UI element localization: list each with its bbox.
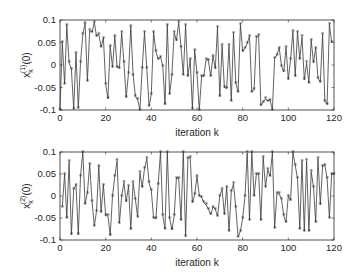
asterisk-marker: * — [220, 186, 224, 194]
asterisk-marker: * — [298, 56, 302, 64]
y-tick-label: 0.1 — [43, 14, 56, 25]
asterisk-marker: * — [177, 19, 181, 27]
asterisk-marker: * — [230, 98, 234, 106]
asterisk-marker: * — [298, 226, 302, 234]
asterisk-marker: * — [163, 226, 167, 234]
asterisk-marker: * — [243, 193, 247, 201]
asterisk-marker: * — [293, 162, 297, 170]
asterisk-marker: * — [250, 149, 254, 157]
y-axis-label: xk(2)(0) — [19, 183, 34, 208]
asterisk-marker: * — [252, 86, 256, 94]
asterisk-marker: * — [193, 47, 197, 55]
asterisk-marker: * — [63, 81, 67, 89]
asterisk-marker: * — [209, 211, 213, 219]
asterisk-marker: * — [291, 28, 295, 36]
asterisk-marker: * — [147, 103, 151, 111]
asterisk-marker: * — [168, 91, 172, 99]
asterisk-marker: * — [312, 59, 316, 67]
asterisk-marker: * — [273, 225, 277, 233]
asterisk-marker: * — [214, 65, 218, 73]
asterisk-marker: * — [106, 212, 110, 220]
asterisk-marker: * — [261, 154, 265, 162]
asterisk-marker: * — [81, 31, 85, 39]
asterisk-marker: * — [223, 211, 227, 219]
asterisk-marker: * — [227, 228, 231, 236]
asterisk-marker: * — [108, 232, 112, 240]
asterisk-marker: * — [115, 157, 119, 165]
asterisk-marker: * — [282, 68, 286, 76]
asterisk-marker: * — [277, 45, 281, 53]
asterisk-marker: * — [307, 228, 311, 236]
asterisk-marker: * — [111, 193, 115, 201]
asterisk-marker: * — [303, 228, 307, 236]
asterisk-marker: * — [287, 76, 291, 84]
asterisk-marker: * — [209, 73, 213, 81]
asterisk-marker: * — [136, 96, 140, 104]
asterisk-marker: * — [147, 179, 151, 187]
y-tick-label: 0.05 — [38, 168, 57, 179]
asterisk-marker: * — [90, 198, 94, 206]
asterisk-marker: * — [77, 231, 81, 239]
x-tick-label: 0 — [57, 242, 62, 253]
asterisk-marker: * — [284, 44, 288, 52]
x-axis-label: iteration k — [175, 257, 219, 268]
asterisk-marker: * — [184, 22, 188, 30]
asterisk-marker: * — [179, 217, 183, 225]
asterisk-marker: * — [319, 201, 323, 209]
asterisk-marker: * — [305, 59, 309, 67]
x-tick-label: 20 — [100, 112, 111, 123]
asterisk-marker: * — [289, 56, 293, 64]
x-tick-label: 40 — [146, 112, 157, 123]
asterisk-marker: * — [300, 33, 304, 41]
asterisk-marker: * — [124, 94, 128, 102]
x-tick-label: 100 — [280, 242, 296, 253]
asterisk-marker: * — [74, 50, 78, 58]
x-tick-label: 60 — [192, 242, 203, 253]
subplot-bottom: ****************************************… — [19, 146, 342, 268]
asterisk-marker: * — [70, 66, 74, 74]
asterisk-marker: * — [191, 199, 195, 207]
asterisk-marker: * — [113, 33, 117, 41]
asterisk-marker: * — [138, 107, 142, 115]
y-tick-label: -0.1 — [40, 234, 56, 245]
asterisk-marker: * — [175, 37, 179, 45]
asterisk-marker: * — [236, 89, 240, 97]
asterisk-marker: * — [232, 30, 236, 38]
asterisk-marker: * — [230, 188, 234, 196]
subplot-top: ****************************************… — [19, 14, 342, 138]
asterisk-marker: * — [289, 197, 293, 205]
x-tick-label: 20 — [100, 242, 111, 253]
asterisk-marker: * — [65, 215, 69, 223]
asterisk-marker: * — [106, 95, 110, 103]
asterisk-marker: * — [134, 196, 138, 204]
asterisk-marker: * — [257, 32, 261, 40]
asterisk-marker: * — [328, 21, 332, 29]
asterisk-marker: * — [309, 168, 313, 176]
asterisk-marker: * — [61, 204, 65, 212]
asterisk-marker: * — [79, 59, 83, 67]
asterisk-marker: * — [239, 228, 243, 236]
asterisk-marker: * — [172, 29, 176, 37]
asterisk-marker: * — [140, 184, 144, 192]
asterisk-marker: * — [257, 171, 261, 179]
asterisk-marker: * — [271, 107, 275, 115]
asterisk-marker: * — [122, 179, 126, 187]
asterisk-marker: * — [332, 171, 336, 179]
asterisk-marker: * — [323, 162, 327, 170]
x-tick-label: 120 — [326, 242, 342, 253]
y-tick-label: 0 — [51, 59, 56, 70]
y-tick-label: -0.05 — [34, 82, 56, 93]
asterisk-marker: * — [202, 73, 206, 81]
asterisk-marker: * — [314, 219, 318, 227]
asterisk-marker: * — [207, 57, 211, 65]
asterisk-marker: * — [170, 72, 174, 80]
asterisk-marker: * — [102, 35, 106, 43]
asterisk-marker: * — [145, 65, 149, 73]
asterisk-marker: * — [150, 91, 154, 99]
asterisk-marker: * — [186, 73, 190, 81]
x-tick-label: 120 — [326, 112, 342, 123]
asterisk-marker: * — [166, 22, 170, 30]
asterisk-marker: * — [159, 149, 163, 157]
asterisk-marker: * — [150, 187, 154, 195]
asterisk-marker: * — [234, 80, 238, 88]
